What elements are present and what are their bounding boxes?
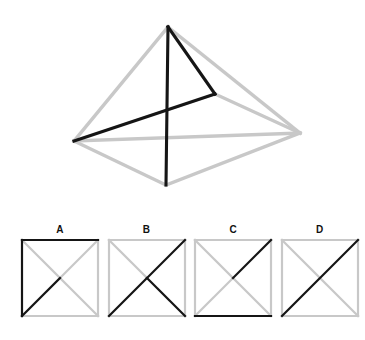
left-to-right-back: [74, 133, 300, 141]
option-a-label: A: [56, 223, 64, 238]
option-c[interactable]: C: [193, 223, 273, 318]
apex-to-front-bottom-vertical: [166, 27, 168, 185]
option-d-svg: [280, 238, 360, 318]
option-b-diagram[interactable]: [107, 238, 187, 318]
answer-options-panel: ABCD: [0, 215, 365, 340]
pyramid-wireframe-svg: [0, 0, 365, 215]
pyramid-figure-panel: [0, 0, 365, 215]
option-b-svg: [107, 238, 187, 318]
top-left-to-center-diagonal: [109, 240, 147, 278]
puzzle-root: ABCD: [0, 0, 365, 340]
option-b-label: B: [143, 223, 151, 238]
option-a-svg: [20, 238, 100, 318]
answer-options-row: ABCD: [20, 223, 360, 333]
center-to-top-right-diagonal: [233, 240, 271, 278]
option-d-diagram[interactable]: [280, 238, 360, 318]
option-c-diagram[interactable]: [193, 238, 273, 318]
option-a[interactable]: A: [20, 223, 100, 318]
option-a-diagram[interactable]: [20, 238, 100, 318]
option-b[interactable]: B: [107, 223, 187, 318]
apex-to-right: [168, 27, 300, 133]
option-c-label: C: [229, 223, 237, 238]
center-to-bottom-right-diagonal: [147, 278, 185, 316]
center-to-bottom-left-diagonal: [195, 278, 233, 316]
front-bottom-to-right: [166, 133, 300, 185]
option-c-svg: [193, 238, 273, 318]
bottom-left-to-center-diagonal: [22, 278, 60, 316]
left-to-front-bottom: [74, 141, 166, 185]
option-d-label: D: [316, 223, 324, 238]
option-d[interactable]: D: [280, 223, 360, 318]
